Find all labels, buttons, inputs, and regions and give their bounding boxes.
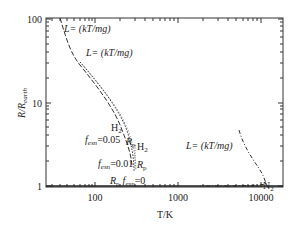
annotation-rp-2: Rp — [136, 159, 147, 172]
x-axis-ticks — [52, 18, 261, 187]
y-tick-100: 100 — [27, 14, 42, 25]
series-h2-001 — [80, 62, 134, 172]
annotation-fesn-001: fesn=0.01 — [98, 158, 133, 171]
x-axis-label: T/K — [157, 209, 174, 220]
annotation-l-2: L= (kT/mg) — [85, 47, 133, 59]
x-tick-1000: 1000 — [168, 192, 188, 203]
y-axis-ticks — [46, 19, 283, 186]
x-tick-10000: 10000 — [249, 192, 274, 203]
annotation-l-3: L= (kT/mg) — [185, 140, 233, 152]
annotation-fesn-005: fesn=0.05 — [85, 134, 120, 147]
chart-canvas: 100 1000 10000 1 10 100 T/K R/Rearth L= … — [0, 0, 297, 228]
y-tick-1: 1 — [37, 181, 42, 192]
plot-frame — [46, 18, 283, 187]
annotation-rp-1: Rp — [125, 136, 136, 149]
series-h2-001b — [82, 64, 136, 170]
x-tick-100: 100 — [88, 192, 103, 203]
annotation-h2-b: H2 — [137, 141, 148, 154]
y-tick-10: 10 — [32, 98, 42, 109]
series-n2 — [200, 130, 266, 186]
svg-text:R/Rearth: R/Rearth — [16, 88, 29, 119]
y-axis-label: R/Rearth — [16, 88, 29, 119]
annotation-l-1: L= (kT/mg) — [63, 23, 111, 35]
